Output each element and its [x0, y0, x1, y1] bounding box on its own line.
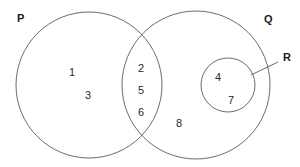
leader-line-r [251, 62, 278, 75]
venn-diagram: P Q R 1 3 2 5 6 4 7 8 [0, 0, 300, 167]
element-subset-r-2: 7 [228, 94, 234, 106]
element-p-only-2: 3 [85, 89, 91, 101]
venn-diagram-canvas: P Q R 1 3 2 5 6 4 7 8 [0, 0, 300, 167]
set-label-q: Q [264, 13, 273, 25]
set-label-p: P [17, 12, 24, 24]
set-circle-q [122, 11, 270, 159]
element-subset-r-1: 4 [215, 71, 221, 83]
element-p-only-1: 1 [69, 66, 75, 78]
element-intersection-3: 6 [138, 106, 144, 118]
set-label-r: R [283, 51, 291, 63]
element-intersection-1: 2 [138, 62, 144, 74]
element-q-only-1: 8 [176, 117, 182, 129]
element-intersection-2: 5 [138, 84, 144, 96]
